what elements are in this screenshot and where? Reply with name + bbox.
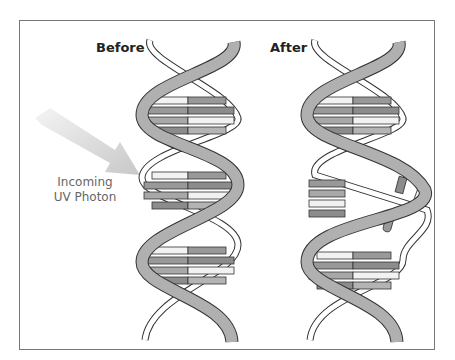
dna-after [307,40,428,342]
dna-before [142,40,238,342]
dna-illustration [0,0,455,360]
uv-photon-arrow [35,108,140,175]
